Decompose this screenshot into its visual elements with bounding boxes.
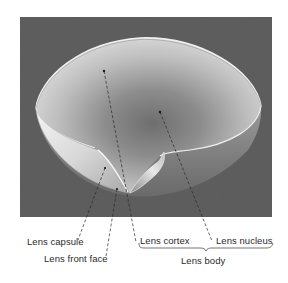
label-lens-capsule: Lens capsule (27, 237, 84, 247)
label-lens-nucleus: Lens nucleus (216, 236, 273, 246)
lens-diagram: Lens capsule Lens front face Lens cortex… (0, 0, 288, 283)
label-lens-body: Lens body (181, 256, 225, 266)
label-lens-cortex: Lens cortex (140, 236, 190, 246)
label-lens-front-face: Lens front face (44, 254, 108, 264)
